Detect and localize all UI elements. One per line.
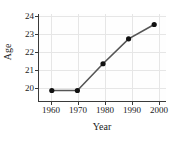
- data-point: [75, 88, 80, 93]
- x-tick-label: 1960: [42, 106, 60, 115]
- data-point: [152, 22, 157, 27]
- series-line: [52, 25, 154, 91]
- y-tick-label: 22: [25, 48, 34, 57]
- plot-area: 20 21 22 23 24 1960 1970 1980 1990 2000: [38, 14, 166, 102]
- x-axis-title: Year: [38, 122, 166, 132]
- data-point: [49, 88, 54, 93]
- data-point: [126, 36, 131, 41]
- data-point: [100, 61, 105, 66]
- y-axis-title: Age: [3, 30, 13, 74]
- y-tick-label: 24: [25, 12, 34, 21]
- y-tick-label: 21: [25, 66, 34, 75]
- x-tick-label: 1970: [69, 106, 87, 115]
- data-series: [39, 14, 167, 102]
- line-chart: 20 21 22 23 24 1960 1970 1980 1990 2000 …: [0, 0, 179, 142]
- y-tick-label: 23: [25, 30, 34, 39]
- y-tick-label: 20: [25, 84, 34, 93]
- x-tick-label: 1980: [96, 106, 114, 115]
- x-tick-label: 1990: [123, 106, 141, 115]
- x-tick-label: 2000: [150, 106, 168, 115]
